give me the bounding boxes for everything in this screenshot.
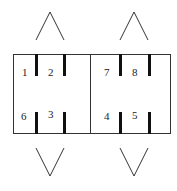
bar-top-2 [63, 54, 66, 76]
label-5: 5 [132, 110, 138, 121]
bar-top-4 [148, 54, 151, 76]
down-chevron-icon-left [36, 148, 64, 176]
down-chevron-icon-right [120, 148, 148, 176]
bar-top-3 [119, 54, 122, 76]
label-6: 6 [21, 111, 27, 122]
label-7: 7 [104, 67, 110, 78]
bar-bottom-3 [119, 112, 122, 134]
bar-bottom-2 [63, 112, 66, 134]
bar-bottom-1 [35, 112, 38, 134]
bar-bottom-4 [148, 112, 151, 134]
label-2: 2 [48, 67, 54, 78]
label-8: 8 [132, 67, 138, 78]
up-chevron-icon-right [120, 12, 148, 40]
bar-top-1 [35, 54, 38, 76]
label-4: 4 [104, 111, 110, 122]
diagram-canvas [0, 0, 177, 191]
up-chevron-icon-left [36, 12, 64, 40]
label-1: 1 [22, 67, 28, 78]
label-3: 3 [48, 109, 54, 120]
